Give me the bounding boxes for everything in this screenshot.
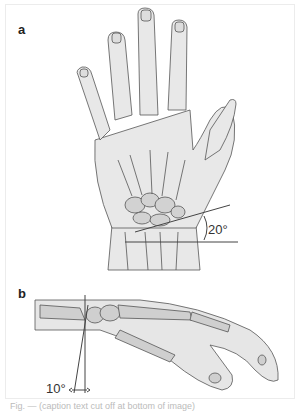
panel-label-b: b xyxy=(18,286,26,301)
angle-label-a: 20° xyxy=(208,222,228,237)
lateral-hand-drawing xyxy=(35,300,278,390)
angle-label-b: 10° xyxy=(46,381,66,396)
figure-caption: Fig. — (caption text cut off at bottom o… xyxy=(10,401,290,411)
panel-label-a: a xyxy=(18,22,25,37)
hand-illustration xyxy=(0,0,298,415)
